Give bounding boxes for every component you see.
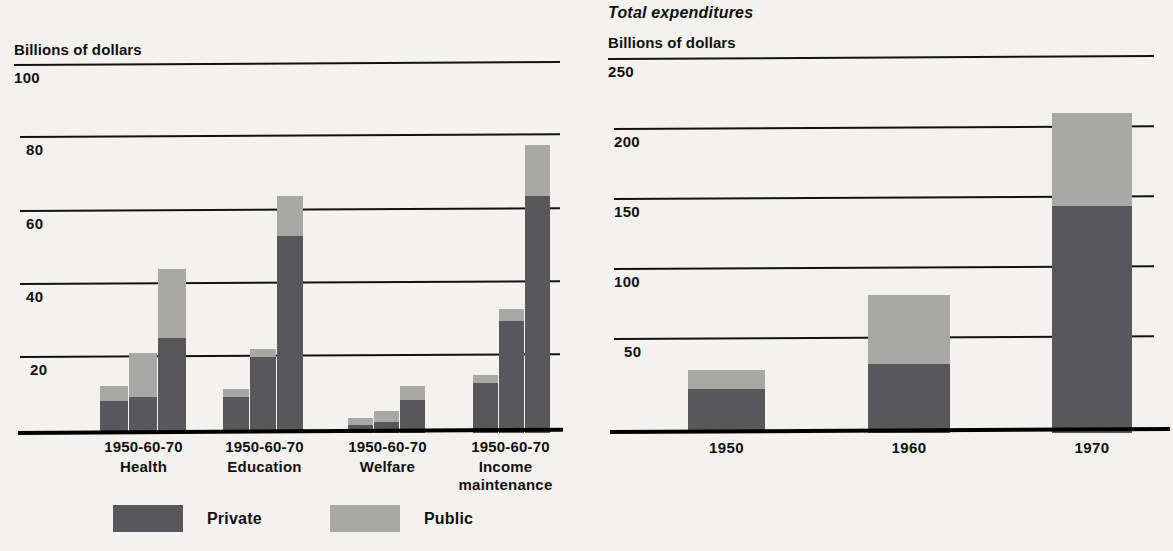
xgroup-period-health: 1950-60-70 bbox=[76, 438, 211, 455]
bar-segment-private bbox=[525, 196, 550, 433]
xgroup-name-education: Education bbox=[197, 458, 332, 476]
bar-health-1960[interactable] bbox=[129, 353, 157, 433]
bar-segment-private bbox=[223, 397, 249, 433]
xgroup-period-education: 1950-60-70 bbox=[197, 438, 332, 455]
legend-label-public: Public bbox=[424, 510, 473, 528]
bar-health-1950[interactable] bbox=[100, 386, 128, 433]
bar-segment-public bbox=[499, 309, 524, 321]
xtick-label-1960: 1960 bbox=[868, 439, 950, 456]
legend-item-private[interactable]: Private bbox=[113, 505, 262, 532]
left-plot-area bbox=[0, 0, 600, 433]
bar-segment-public bbox=[100, 386, 128, 401]
bar-segment-private bbox=[277, 236, 303, 433]
xtick-label-1950: 1950 bbox=[688, 439, 765, 456]
bar-total-1970[interactable] bbox=[1052, 113, 1132, 433]
bar-income-maintenance-1970[interactable] bbox=[525, 145, 550, 433]
chart-page: Billions of dollars 100 80 60 40 20 bbox=[0, 0, 1173, 551]
xgroup-name-income-maintenance: Incomemaintenance bbox=[443, 458, 568, 494]
bar-income-maintenance-1950[interactable] bbox=[473, 375, 498, 433]
legend-item-public[interactable]: Public bbox=[330, 505, 473, 532]
xtick-label-1970: 1970 bbox=[1052, 439, 1132, 456]
bar-segment-public bbox=[400, 386, 425, 400]
bar-segment-private bbox=[1052, 206, 1132, 433]
bar-segment-public bbox=[868, 295, 950, 364]
xgroup-name-welfare: Welfare bbox=[320, 458, 455, 476]
bar-segment-private bbox=[100, 401, 128, 433]
bar-segment-private bbox=[129, 397, 157, 433]
bar-segment-public bbox=[473, 375, 498, 383]
bar-total-1950[interactable] bbox=[688, 370, 765, 433]
bar-segment-private bbox=[158, 338, 186, 433]
xgroup-period-income-maintenance: 1950-60-70 bbox=[443, 438, 578, 455]
bar-segment-private bbox=[250, 357, 276, 433]
bar-segment-public bbox=[374, 411, 399, 422]
left-chart-panel: Billions of dollars 100 80 60 40 20 bbox=[0, 0, 600, 551]
bar-total-1960[interactable] bbox=[868, 295, 950, 433]
bar-segment-public bbox=[525, 145, 550, 196]
bar-segment-public bbox=[250, 349, 276, 357]
bar-segment-public bbox=[1052, 113, 1132, 206]
bar-segment-public bbox=[348, 418, 373, 425]
right-chart-panel: Total expenditures Billions of dollars 2… bbox=[600, 0, 1173, 551]
bar-income-maintenance-1960[interactable] bbox=[499, 309, 524, 433]
bar-segment-private bbox=[499, 321, 524, 433]
xgroup-name-health: Health bbox=[76, 458, 211, 476]
bar-segment-public bbox=[158, 269, 186, 338]
bar-education-1970[interactable] bbox=[277, 196, 303, 433]
legend-swatch-public-icon bbox=[330, 505, 400, 532]
bar-segment-public bbox=[688, 370, 765, 389]
bar-segment-public bbox=[277, 196, 303, 236]
bar-segment-public bbox=[129, 353, 157, 397]
bar-education-1960[interactable] bbox=[250, 349, 276, 433]
bar-education-1950[interactable] bbox=[223, 389, 249, 433]
bar-health-1970[interactable] bbox=[158, 269, 186, 433]
legend-label-private: Private bbox=[207, 510, 262, 528]
right-plot-area bbox=[600, 0, 1173, 433]
bar-segment-private bbox=[473, 383, 498, 433]
legend-swatch-private-icon bbox=[113, 505, 183, 532]
bar-segment-private bbox=[688, 389, 765, 433]
bar-segment-public bbox=[223, 389, 249, 397]
bar-segment-private bbox=[868, 364, 950, 433]
xgroup-period-welfare: 1950-60-70 bbox=[320, 438, 455, 455]
bar-welfare-1970[interactable] bbox=[400, 386, 425, 433]
